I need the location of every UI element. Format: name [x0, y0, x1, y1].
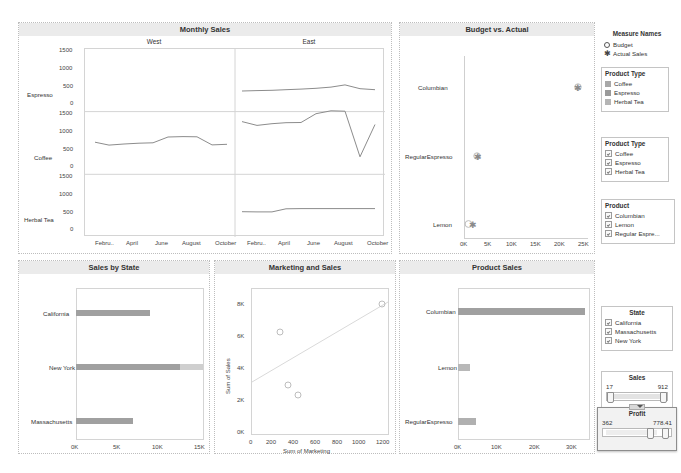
bar-new-york-segment-2[interactable] [180, 364, 203, 370]
profit-slider-thumb-max[interactable] [662, 428, 669, 439]
filter-label: New York [615, 337, 641, 344]
filter-item-columbian[interactable]: Columbian [605, 211, 671, 220]
xtick: 25K [578, 241, 589, 247]
checkbox-icon[interactable] [605, 150, 612, 157]
panel-sales-by-state[interactable]: Sales by State California New York Massa… [18, 260, 210, 454]
checkbox-icon[interactable] [605, 159, 612, 166]
ytick: 8K [237, 301, 244, 307]
card-title: Product Type [605, 140, 665, 147]
svg-text:✱: ✱ [469, 220, 477, 230]
legend-item-budget[interactable]: Budget [604, 40, 647, 49]
xtick: 10K [506, 241, 517, 247]
row-label-herbal-tea: Herbal Tea [24, 216, 54, 223]
y-axis-title: Sum of Sales [225, 358, 231, 394]
ytick: 1000 [59, 191, 72, 197]
bar-new-york[interactable] [76, 364, 180, 370]
xtick: 20K [554, 241, 565, 247]
xtick: 5K [484, 241, 491, 247]
ytick: 500 [63, 83, 73, 89]
legend-item-coffee[interactable]: Coffee [605, 79, 665, 88]
checkbox-icon[interactable] [605, 230, 612, 237]
legend-item-actual-sales[interactable]: ✱ Actual Sales [604, 49, 647, 58]
xtick: August [182, 240, 201, 246]
budget-actual-marks: ✱ ✱ ✱ [464, 36, 594, 238]
filter-item-california[interactable]: California [605, 318, 669, 327]
xtick: April [126, 240, 138, 246]
panel-budget-vs-actual[interactable]: Budget vs. Actual Columbian RegularEspre… [399, 22, 595, 254]
marketing-sales-plot: Sum of Sales 8K 6K 4K 2K 0K 0 200 400 60… [215, 274, 395, 453]
bar-massachusetts[interactable] [76, 418, 133, 424]
checkbox-icon[interactable] [605, 221, 612, 228]
filter-item-lemon[interactable]: Lemon [605, 220, 671, 229]
drag-handle-icon[interactable] [629, 404, 645, 410]
ytick: 6K [237, 333, 244, 339]
bar-lemon[interactable] [458, 364, 470, 371]
product-type-color-legend[interactable]: Product Type Coffee Espresso Herbal Tea [601, 67, 669, 112]
sales-slider-thumb-max[interactable] [660, 392, 667, 403]
x-axis-line [464, 238, 588, 239]
circle-marker-icon [604, 42, 610, 48]
xtick: 5K [113, 444, 120, 450]
bar-regular-espresso[interactable] [458, 418, 476, 425]
sales-max-value: 912 [658, 383, 668, 390]
state-filter[interactable]: State California Massachusetts New York [601, 306, 673, 351]
row-label-regular-espresso: RegularEspresso [405, 153, 452, 160]
ytick: 1000 [59, 128, 72, 134]
filter-item-espresso[interactable]: Espresso [605, 158, 665, 167]
checkbox-icon[interactable] [605, 319, 612, 326]
measure-names-legend[interactable]: Budget ✱ Actual Sales [604, 40, 647, 58]
svg-text:✱: ✱ [474, 152, 482, 162]
legend-label: Coffee [614, 80, 632, 87]
xtick: 0K [460, 241, 467, 247]
panel-title-sales-by-state: Sales by State [19, 261, 209, 275]
xtick: October [367, 240, 388, 246]
product-type-filter[interactable]: Product Type Coffee Espresso Herbal Tea [601, 137, 669, 182]
checkbox-icon[interactable] [605, 212, 612, 219]
bar-california[interactable] [76, 310, 150, 316]
budget-actual-plot: Columbian RegularEspresso Lemon ✱ ✱ ✱ 0K… [400, 36, 594, 253]
legend-label: Herbal Tea [614, 98, 644, 105]
xtick: October [215, 240, 236, 246]
xtick: 20K [529, 444, 540, 450]
monthly-sales-plot: West East Espresso Coffee Herbal Tea 150… [19, 36, 391, 253]
monthly-sales-lines [85, 49, 385, 237]
xtick: 0 [249, 439, 252, 445]
filter-item-regular-espresso[interactable]: Regular Espre... [605, 229, 671, 238]
card-title: Sales [606, 374, 668, 381]
profit-slider-thumb-min[interactable] [647, 428, 654, 439]
checkbox-icon[interactable] [605, 337, 612, 344]
profit-slider-track[interactable] [602, 428, 672, 437]
card-title: Profit [602, 410, 672, 417]
checkbox-icon[interactable] [605, 328, 612, 335]
dashboard: Monthly Sales West East Espresso Coffee … [0, 0, 681, 473]
row-label-lemon: Lemon [438, 364, 457, 371]
ytick: 0K [237, 429, 244, 435]
panel-marketing-and-sales[interactable]: Marketing and Sales Sum of Sales 8K 6K 4… [214, 260, 396, 454]
panel-title-monthly-sales: Monthly Sales [19, 23, 391, 37]
sales-range-filter[interactable]: Sales 17 912 [601, 371, 673, 408]
filter-label: Lemon [615, 221, 634, 228]
filter-item-massachusetts[interactable]: Massachusetts [605, 327, 669, 336]
row-label-columbian: Columbian [418, 84, 448, 91]
panel-product-sales[interactable]: Product Sales Columbian Lemon RegularEsp… [399, 260, 595, 454]
bar-columbian[interactable] [458, 308, 585, 315]
sales-slider-thumb-min[interactable] [607, 392, 614, 403]
filter-item-new-york[interactable]: New York [605, 336, 669, 345]
filter-item-coffee[interactable]: Coffee [605, 149, 665, 158]
checkbox-icon[interactable] [605, 168, 612, 175]
filter-item-herbal-tea[interactable]: Herbal Tea [605, 167, 665, 176]
legend-item-herbal-tea[interactable]: Herbal Tea [605, 97, 665, 106]
legend-item-espresso[interactable]: Espresso [605, 88, 665, 97]
profit-range-filter[interactable]: Profit 362 778.41 [597, 407, 677, 451]
ytick: 1500 [59, 173, 72, 179]
xtick: Febru.. [247, 240, 266, 246]
panel-monthly-sales[interactable]: Monthly Sales West East Espresso Coffee … [18, 22, 392, 254]
card-title: Product [605, 202, 671, 209]
sales-slider-track[interactable] [606, 392, 668, 401]
legend-label: Actual Sales [613, 50, 647, 57]
product-filter[interactable]: Product Columbian Lemon Regular Espre... [601, 199, 675, 244]
xtick: 15K [194, 444, 205, 450]
sales-min-value: 17 [606, 383, 613, 390]
row-label-lemon: Lemon [433, 221, 452, 228]
color-swatch-icon [605, 81, 611, 87]
